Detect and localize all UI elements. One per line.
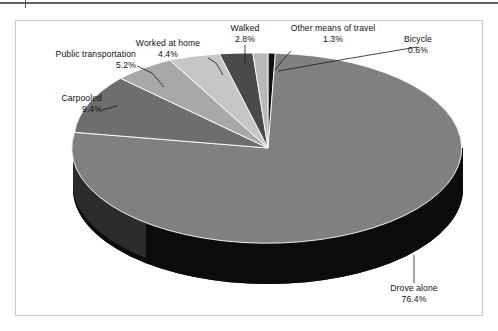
label-walked: Walked 2.8% (214, 23, 276, 44)
label-public-transportation: Public transportation 5.2% (14, 49, 136, 70)
label-other-means: Other means of travel 1.3% (274, 23, 392, 44)
pie-top-surface (72, 53, 462, 243)
scan-artifact-rule (0, 2, 498, 4)
label-carpooled: Carpooled 9.4% (16, 93, 102, 114)
label-drove-alone: Drove alone 76.4% (374, 283, 454, 304)
chart-frame: Public transportation 5.2% Carpooled 9.4… (15, 20, 483, 316)
label-worked-at-home: Worked at home 4.4% (124, 38, 212, 59)
scan-artifact-tick (25, 0, 26, 8)
label-bicycle: Bicycle 0.6% (394, 34, 442, 55)
